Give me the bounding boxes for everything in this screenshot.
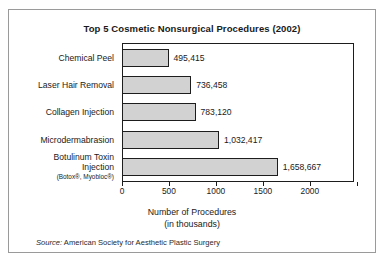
bar-row: 736,458: [122, 76, 354, 94]
source-label: Source:: [36, 238, 62, 247]
figure-frame: Top 5 Cosmetic Nonsurgical Procedures (2…: [8, 9, 376, 253]
source-note: Source: American Society for Aesthetic P…: [36, 238, 220, 247]
chart-title: Top 5 Cosmetic Nonsurgical Procedures (2…: [9, 23, 375, 34]
bar-row: 1,032,417: [122, 131, 354, 149]
bar-value-label: 1,658,667: [283, 162, 321, 172]
category-label: Collagen Injection: [0, 107, 114, 118]
x-axis-title: Number of Procedures (in thousands): [9, 207, 375, 230]
bar-value-label: 783,120: [201, 107, 232, 117]
x-tick-mark: [357, 182, 358, 186]
x-tick-label: 1000: [207, 186, 226, 196]
category-sublabel: (Botox®, Myobloc®): [0, 173, 114, 181]
bar-value-label: 495,415: [174, 53, 205, 63]
bar-row: 495,415: [122, 49, 354, 67]
x-tick-label: 500: [162, 186, 176, 196]
bar[interactable]: [122, 131, 219, 149]
x-axis-title-sub: (in thousands): [9, 219, 375, 231]
bar[interactable]: [122, 76, 191, 94]
bar[interactable]: [122, 103, 196, 121]
category-label: Laser Hair Removal: [0, 80, 114, 91]
x-tick-label: 2000: [301, 186, 320, 196]
category-label: Chemical Peel: [0, 53, 114, 64]
source-value: American Society for Aesthetic Plastic S…: [62, 238, 220, 247]
category-label-line1: Botulinum Toxin: [53, 152, 114, 162]
bar-row: 783,120: [122, 103, 354, 121]
bar-row: 1,658,667: [122, 158, 354, 176]
x-tick-label: 0: [120, 186, 125, 196]
x-axis-title-main: Number of Procedures: [148, 207, 237, 217]
x-tick-label: 1500: [254, 186, 273, 196]
category-label: Microdermabrasion: [0, 135, 114, 146]
category-label: Botulinum ToxinInjection(Botox®, Myobloc…: [0, 152, 114, 181]
bar-value-label: 1,032,417: [224, 135, 262, 145]
bar[interactable]: [122, 158, 278, 176]
bar-value-label: 736,458: [196, 80, 227, 90]
category-label-line2: Injection: [0, 162, 114, 173]
bar[interactable]: [122, 49, 169, 67]
